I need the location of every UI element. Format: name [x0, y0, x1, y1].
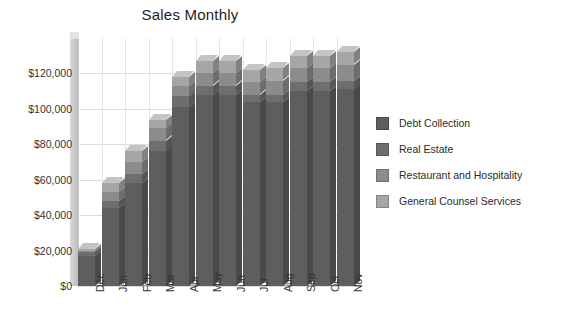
bar-segment-front-face [125, 162, 142, 174]
bar-segment-front-face [149, 128, 166, 140]
legend-item[interactable]: General Counsel Services [376, 188, 561, 214]
bar-segment-front-face [290, 56, 307, 68]
bar-segment-front-face [102, 201, 119, 208]
bar-segment-debt-collection[interactable] [219, 95, 236, 286]
bar-segment-side-face [354, 84, 360, 286]
bar-segment-restaurant-and-hospitality[interactable] [125, 162, 142, 174]
bar-segment-front-face [172, 107, 189, 286]
bar-segment-side-face [213, 90, 219, 286]
bar-segment-front-face [243, 95, 260, 102]
x-axis-tick-label: Jul [258, 279, 270, 292]
bar-segment-real-estate[interactable] [290, 82, 307, 91]
bar-segment-restaurant-and-hospitality[interactable] [290, 68, 307, 82]
bar-segment-debt-collection[interactable] [337, 89, 354, 286]
bar-segment-real-estate[interactable] [219, 86, 236, 95]
bar-segment-general-counsel-services[interactable] [196, 61, 213, 73]
x-axis-tick-label: Sep [305, 273, 317, 292]
bar-segment-restaurant-and-hospitality[interactable] [243, 82, 260, 94]
bar-segment-general-counsel-services[interactable] [102, 183, 119, 192]
bar-column[interactable] [243, 70, 260, 286]
bar-segment-front-face [313, 91, 330, 286]
bar-segment-general-counsel-services[interactable] [243, 70, 260, 82]
bar-segment-general-counsel-services[interactable] [172, 77, 189, 86]
bar-segment-restaurant-and-hospitality[interactable] [149, 128, 166, 140]
bar-segment-real-estate[interactable] [266, 95, 283, 102]
bar-segment-real-estate[interactable] [337, 81, 354, 90]
bar-segment-side-face [166, 146, 172, 286]
bar-segment-real-estate[interactable] [149, 141, 166, 152]
bar-segment-front-face [243, 82, 260, 94]
legend-item-label: General Counsel Services [399, 195, 521, 207]
bar-segment-real-estate[interactable] [78, 252, 95, 256]
bar-column[interactable] [313, 56, 330, 286]
bar-segment-front-face [78, 251, 95, 253]
bar-segment-front-face [266, 102, 283, 286]
bar-column[interactable] [125, 151, 142, 286]
bar-segment-real-estate[interactable] [196, 86, 213, 95]
bar-segment-front-face [337, 89, 354, 286]
bar-segment-front-face [219, 73, 236, 85]
bar-segment-general-counsel-services[interactable] [149, 120, 166, 129]
bar-segment-front-face [290, 68, 307, 82]
bar-column[interactable] [219, 61, 236, 286]
bar-column[interactable] [102, 183, 119, 286]
bar-segment-debt-collection[interactable] [243, 102, 260, 286]
bar-segment-restaurant-and-hospitality[interactable] [219, 73, 236, 85]
bar-column[interactable] [78, 249, 95, 286]
bar-segment-front-face [313, 68, 330, 82]
bar-segment-general-counsel-services[interactable] [125, 151, 142, 162]
bar-segment-real-estate[interactable] [243, 95, 260, 102]
bar-segment-restaurant-and-hospitality[interactable] [172, 86, 189, 97]
bar-column[interactable] [149, 120, 166, 287]
bar-segment-real-estate[interactable] [102, 201, 119, 208]
x-axis-tick-label: Nov [352, 273, 364, 292]
bar-segment-debt-collection[interactable] [78, 256, 95, 286]
bar-segment-real-estate[interactable] [313, 82, 330, 91]
bar-segment-debt-collection[interactable] [196, 95, 213, 286]
bar-segment-restaurant-and-hospitality[interactable] [313, 68, 330, 82]
bar-segment-front-face [78, 249, 95, 251]
bar-column[interactable] [290, 56, 307, 286]
legend-item-label: Real Estate [399, 143, 453, 155]
bar-segment-general-counsel-services[interactable] [219, 61, 236, 73]
bar-segment-debt-collection[interactable] [172, 107, 189, 286]
bar-segment-front-face [102, 183, 119, 192]
bar-segment-general-counsel-services[interactable] [290, 56, 307, 68]
bar-segment-general-counsel-services[interactable] [337, 52, 354, 64]
bar-segment-general-counsel-services[interactable] [78, 249, 95, 251]
bar-segment-restaurant-and-hospitality[interactable] [102, 192, 119, 201]
bar-segment-debt-collection[interactable] [290, 91, 307, 286]
bar-segment-front-face [196, 61, 213, 73]
y-axis-tick-label: $60,000 [6, 174, 72, 186]
bar-segment-restaurant-and-hospitality[interactable] [266, 81, 283, 95]
legend-item[interactable]: Real Estate [376, 136, 561, 162]
x-axis-tick-label: Oct [329, 276, 341, 292]
bar-segment-debt-collection[interactable] [313, 91, 330, 286]
bar-segment-restaurant-and-hospitality[interactable] [337, 65, 354, 81]
bar-segment-front-face [125, 174, 142, 183]
x-axis-tick-label: Aug [282, 273, 294, 292]
bar-column[interactable] [196, 61, 213, 286]
bar-segment-real-estate[interactable] [172, 96, 189, 107]
bar-segment-front-face [337, 81, 354, 90]
bar-segment-front-face [243, 70, 260, 82]
bar-segment-real-estate[interactable] [125, 174, 142, 183]
bar-segment-front-face [172, 86, 189, 97]
bar-segment-front-face [219, 95, 236, 286]
legend-item[interactable]: Debt Collection [376, 110, 561, 136]
bar-segment-debt-collection[interactable] [125, 183, 142, 286]
bar-segment-front-face [219, 61, 236, 73]
bar-segment-debt-collection[interactable] [149, 151, 166, 286]
y-axis-tick-label: $80,000 [6, 138, 72, 150]
bar-segment-restaurant-and-hospitality[interactable] [78, 251, 95, 253]
legend-item[interactable]: Restaurant and Hospitality [376, 162, 561, 188]
x-axis-tick-label: Mar [164, 274, 176, 292]
bar-column[interactable] [172, 77, 189, 286]
bar-column[interactable] [266, 68, 283, 286]
bar-segment-general-counsel-services[interactable] [266, 68, 283, 80]
y-axis-tick-label: $0 [6, 280, 72, 292]
bar-segment-restaurant-and-hospitality[interactable] [196, 73, 213, 85]
bar-column[interactable] [337, 52, 354, 286]
bar-segment-debt-collection[interactable] [266, 102, 283, 286]
bar-segment-general-counsel-services[interactable] [313, 56, 330, 68]
